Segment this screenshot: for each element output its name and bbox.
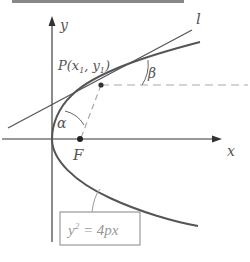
alpha-label: α	[57, 115, 67, 131]
focus-dot	[77, 136, 83, 142]
x-axis-arrow-icon	[212, 136, 222, 143]
parabola-diagram: y x l P(x1, y1) β α F y2 = 4px	[0, 0, 250, 262]
tangent-label: l	[196, 10, 201, 28]
x-axis-label: x	[227, 143, 235, 159]
equation-text: y2 = 4px	[66, 221, 119, 238]
dashed-focal-line	[81, 85, 101, 138]
focus-label: F	[72, 146, 84, 164]
point-p-label: P(x1, y1)	[57, 58, 110, 75]
header-rule	[12, 0, 184, 3]
y-axis-arrow-icon	[49, 16, 56, 26]
point-p-dot	[98, 82, 103, 87]
y-axis-label: y	[59, 17, 69, 33]
alpha-arc	[65, 111, 84, 125]
tangent-line	[8, 30, 192, 128]
beta-label: β	[147, 65, 156, 81]
